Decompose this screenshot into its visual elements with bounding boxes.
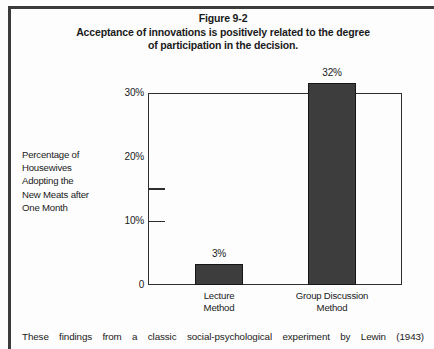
bar-value-group-discussion-method: 32% (297, 68, 367, 78)
x-axis-label-lecture-method-line-2: Method (154, 302, 284, 314)
y-axis-caption-line-1: Percentage of (22, 148, 126, 161)
x-axis-label-lecture-method-line-1: Lecture (154, 290, 284, 302)
y-axis-caption-line-4: New Meats after (22, 188, 126, 201)
y-axis-label-30: 30% (96, 88, 144, 98)
y-axis-caption: Percentage of Housewives Adopting the Ne… (22, 148, 126, 214)
bar-group-discussion-method[interactable] (308, 83, 356, 285)
x-axis-label-group-discussion-method-line-2: Method (267, 302, 397, 314)
x-axis-label-group-discussion-method: Group Discussion Method (267, 290, 397, 315)
x-axis-label-group-discussion-method-line-1: Group Discussion (267, 290, 397, 302)
y-axis-label-10: 10% (96, 216, 144, 226)
y-axis-caption-line-3: Adopting the (22, 174, 126, 187)
bar-chart: 30% 20% 10% 0 Percentage of Housewives A… (0, 0, 434, 349)
bar-value-lecture-method: 3% (184, 249, 254, 259)
y-tick-mark-20 (148, 188, 165, 190)
y-axis-caption-line-2: Housewives (22, 161, 126, 174)
bar-lecture-method[interactable] (195, 264, 243, 285)
y-axis-label-0: 0 (96, 280, 144, 290)
y-tick-mark-10 (148, 221, 165, 223)
footer-note: These findings from a classic social-psy… (22, 330, 424, 343)
x-axis-label-lecture-method: Lecture Method (154, 290, 284, 315)
y-axis-caption-line-5: One Month (22, 201, 126, 214)
